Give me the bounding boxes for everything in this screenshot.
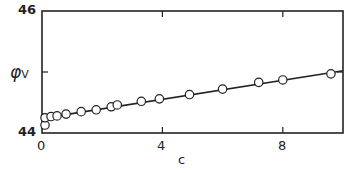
x-tick-0: 0 (37, 138, 45, 153)
x-axis-title: c (178, 152, 185, 167)
data-point (92, 106, 100, 114)
y-axis-title: φV (10, 62, 29, 82)
chart-plot (0, 0, 352, 173)
data-point (185, 90, 193, 98)
data-point (155, 95, 163, 103)
data-point (62, 110, 70, 118)
y-tick-44: 44 (18, 124, 36, 139)
x-tick-4: 4 (157, 138, 165, 153)
data-point (218, 85, 226, 93)
data-point (77, 107, 85, 115)
data-point (137, 97, 145, 105)
y-axis-symbol: φ (10, 62, 21, 82)
y-axis-subscript: V (21, 68, 29, 81)
data-point (53, 112, 61, 120)
plot-frame (42, 11, 343, 133)
data-point (279, 76, 287, 84)
data-point (113, 101, 121, 109)
y-tick-46: 46 (18, 2, 36, 17)
data-point (327, 70, 335, 78)
data-point (255, 78, 263, 86)
x-tick-8: 8 (278, 138, 286, 153)
